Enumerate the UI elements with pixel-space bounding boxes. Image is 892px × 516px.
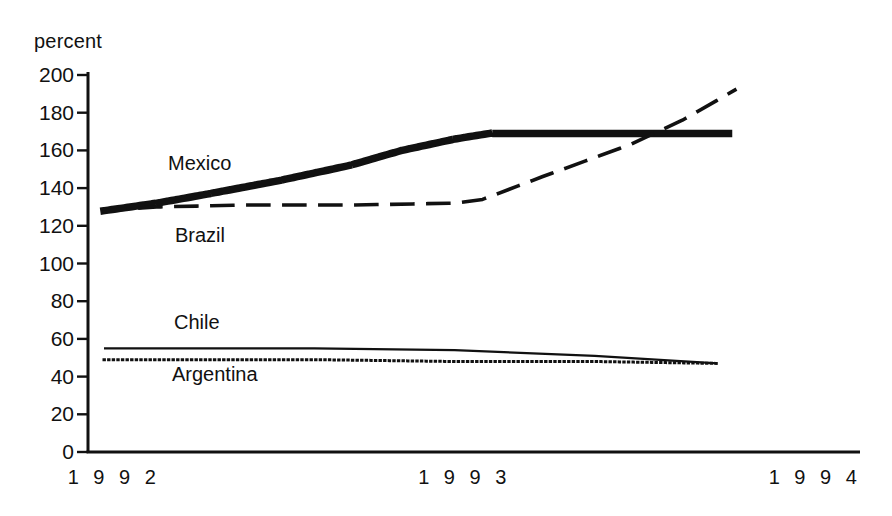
- series-line-mexico: [104, 133, 735, 210]
- chart-container: percent 200180160140120100806040200 1 9 …: [0, 0, 892, 516]
- series-line-argentina: [104, 360, 717, 364]
- plot-area: [0, 0, 892, 516]
